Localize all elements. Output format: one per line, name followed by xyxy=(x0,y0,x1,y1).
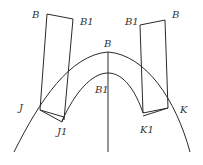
label-j: J xyxy=(17,102,24,113)
label-k: K xyxy=(179,104,188,115)
label-right-strip-b1: B1 xyxy=(124,16,139,27)
geometry-diagram: B B1 B1 B B B1 J J1 K1 K xyxy=(0,0,203,165)
right-strip xyxy=(140,20,168,113)
label-j1: J1 xyxy=(55,126,67,137)
label-right-strip-b: B xyxy=(171,9,179,20)
inner-arc xyxy=(62,73,143,121)
label-k1: K1 xyxy=(139,124,154,135)
left-strip xyxy=(40,14,73,120)
left-connector-1 xyxy=(40,110,64,117)
left-connector-2 xyxy=(40,110,62,122)
label-outer-apex-b: B xyxy=(103,38,111,49)
label-left-strip-b: B xyxy=(31,9,39,20)
label-left-strip-b1: B1 xyxy=(79,16,94,27)
label-inner-apex-b1: B1 xyxy=(94,84,109,95)
